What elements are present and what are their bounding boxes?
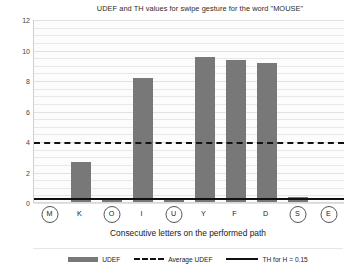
x-axis-tick-label-e: E [320, 206, 337, 223]
bar-swatch-icon [68, 257, 98, 262]
x-axis-title: Consecutive letters on the performed pat… [33, 228, 343, 238]
legend-item-average-udef: Average UDEF [134, 256, 212, 263]
legend-item-udef: UDEF [68, 256, 120, 263]
x-axis-tick-label-m: M [41, 206, 58, 223]
y-axis-tick-label: 6 [6, 108, 30, 115]
bars-layer [34, 20, 344, 203]
chart-title: UDEF and TH values for swipe gesture for… [60, 4, 340, 13]
legend-label-udef: UDEF [102, 256, 120, 263]
y-axis-tick-label: 4 [6, 139, 30, 146]
bar [133, 78, 153, 203]
x-axis-tick-label-f: F [225, 206, 245, 222]
x-axis-tick-label-k: K [70, 206, 90, 222]
y-axis-labels: 024681012 [4, 20, 30, 203]
legend-label-th: TH for H = 0.15 [262, 256, 307, 263]
bar [257, 63, 277, 203]
x-axis-tick-label-o: O [103, 206, 120, 223]
average-udef-line [34, 142, 344, 144]
x-axis-tick-label-y: Y [194, 206, 214, 222]
axis-baseline [34, 202, 344, 203]
x-axis-tick-label-i: I [132, 206, 152, 222]
bar [195, 57, 215, 203]
legend-item-th: TH for H = 0.15 [226, 256, 307, 263]
bar [226, 60, 246, 203]
x-axis-tick-label-d: D [256, 206, 276, 222]
legend-label-average-udef: Average UDEF [168, 256, 212, 263]
chart-legend: UDEF Average UDEF TH for H = 0.15 [33, 248, 343, 269]
y-axis-tick-label: 10 [6, 47, 30, 54]
y-axis-tick-label: 8 [6, 78, 30, 85]
th-threshold-line [34, 198, 344, 200]
solid-line-icon [226, 258, 258, 260]
y-axis-tick-label: 12 [6, 17, 30, 24]
plot-area [33, 20, 344, 203]
x-axis-tick-label-u: U [165, 206, 182, 223]
x-axis-tick-label-s: S [289, 206, 306, 223]
y-axis-tick-label: 0 [6, 200, 30, 207]
x-axis-labels: MKOIUYFDSE [33, 204, 343, 226]
y-axis-tick-label: 2 [6, 169, 30, 176]
dashed-line-icon [134, 258, 164, 260]
chart-container: UDEF and TH values for swipe gesture for… [0, 0, 355, 274]
